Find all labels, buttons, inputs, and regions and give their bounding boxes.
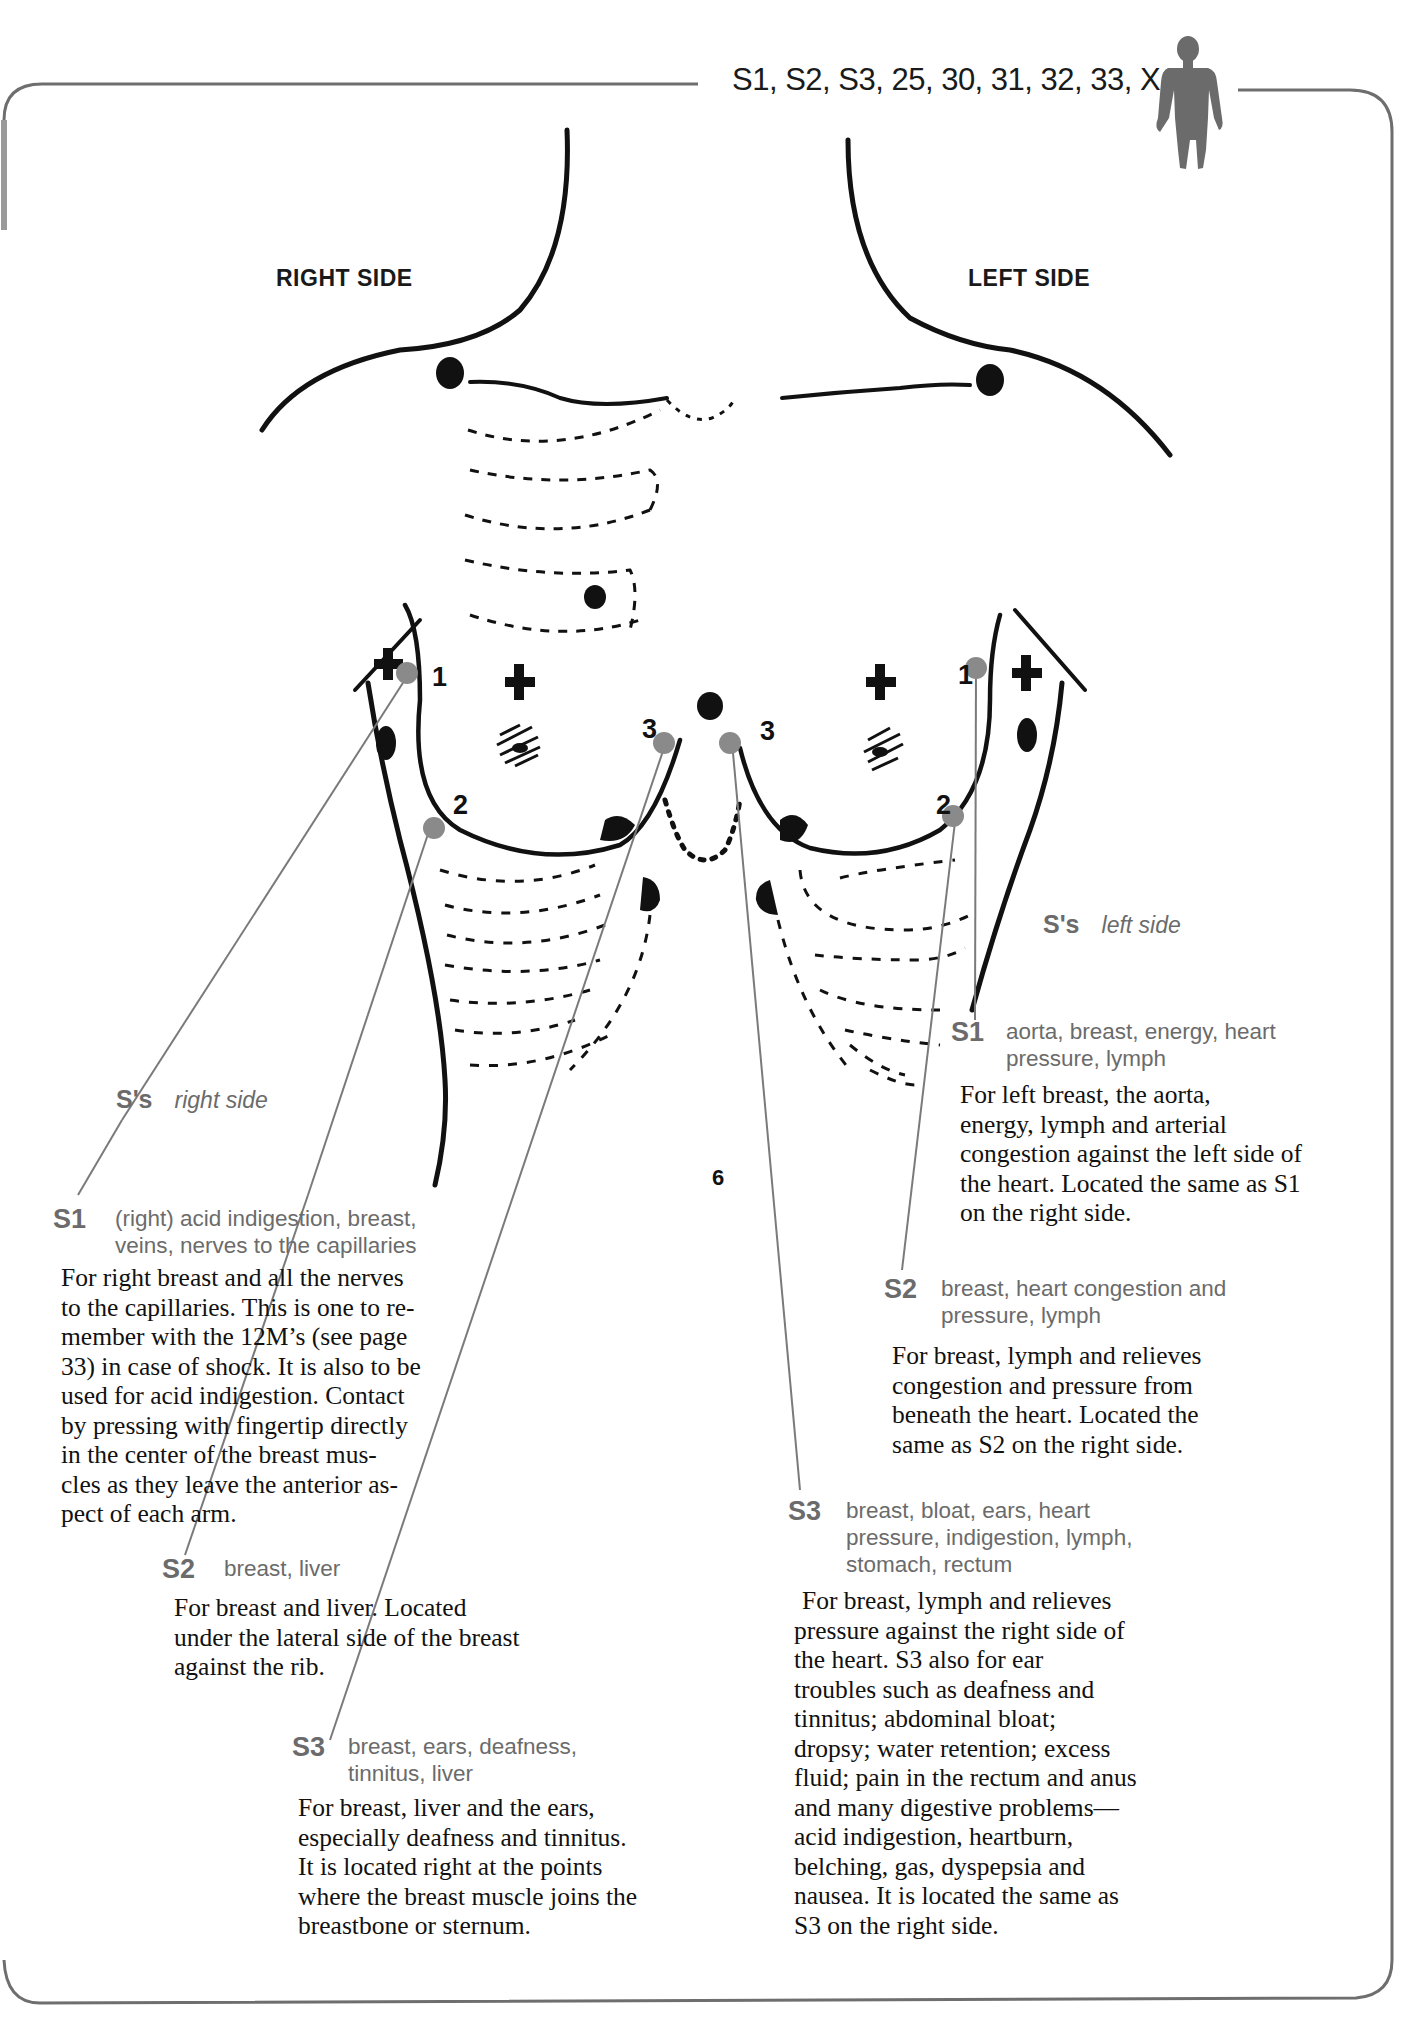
body-line: tinnitus; abdominal bloat; <box>794 1704 1258 1734</box>
point-keywords: breast, bloat, ears, heart pressure, ind… <box>846 1497 1132 1578</box>
left-s1-entry: S1 aorta, breast, energy, heart pressure… <box>951 1018 1381 1228</box>
nipple-hatch-icon <box>497 725 903 770</box>
right-s1-entry: S1 (right) acid indigestion, breast, vei… <box>53 1205 533 1529</box>
body-line: energy, lymph and arterial <box>960 1110 1381 1140</box>
body-line: breastbone or sternum. <box>298 1911 762 1941</box>
point-number-right-2: 2 <box>453 790 468 821</box>
sternal-notch <box>667 398 735 420</box>
body-line: 33) in case of shock. It is also to be <box>61 1352 533 1382</box>
body-line: to the capillaries. This is one to re- <box>61 1293 533 1323</box>
keyword-line: breast, ears, deafness, <box>348 1734 577 1759</box>
point-code: S2 <box>162 1555 224 1583</box>
left-s3-entry: S3 breast, bloat, ears, heart pressure, … <box>788 1497 1258 1940</box>
body-line: under the lateral side of the breast <box>174 1623 642 1653</box>
body-line: against the rib. <box>174 1652 642 1682</box>
point-description: For left breast, the aorta, energy, lymp… <box>951 1080 1381 1228</box>
point-header: S1 aorta, breast, energy, heart pressure… <box>951 1018 1381 1072</box>
point-keywords: breast, ears, deafness, tinnitus, liver <box>348 1733 577 1787</box>
keyword-line: breast, bloat, ears, heart <box>846 1498 1090 1523</box>
point-header: S1 (right) acid indigestion, breast, vei… <box>53 1205 533 1259</box>
body-line: For right breast and all the nerves <box>61 1263 533 1293</box>
body-line: used for acid indigestion. Contact <box>61 1381 533 1411</box>
point-header: S2 breast, heart congestion and pressure… <box>884 1275 1324 1329</box>
left-side-label: LEFT SIDE <box>968 265 1090 292</box>
body-line: where the breast muscle joins the <box>298 1882 762 1912</box>
body-line: It is located right at the points <box>298 1852 762 1882</box>
point-code: S1 <box>951 1018 1006 1072</box>
keyword-line: breast, liver <box>224 1556 340 1581</box>
center-mark: 6 <box>712 1165 724 1191</box>
body-line: For breast, liver and the ears, <box>298 1793 762 1823</box>
right-side-label: RIGHT SIDE <box>276 265 413 292</box>
point-description: For breast, liver and the ears, especial… <box>292 1793 762 1941</box>
point-keywords: (right) acid indigestion, breast, veins,… <box>115 1205 416 1259</box>
point-keywords: breast, liver <box>224 1555 340 1583</box>
keyword-line: pressure, indigestion, lymph, <box>846 1525 1132 1550</box>
body-line: fluid; pain in the rectum and anus <box>794 1763 1258 1793</box>
body-line: pect of each arm. <box>61 1499 533 1529</box>
body-line: cles as they leave the anterior as- <box>61 1470 533 1500</box>
marker-right-1 <box>396 662 418 684</box>
point-number-right-1: 1 <box>432 662 447 693</box>
keyword-line: aorta, breast, energy, heart <box>1006 1019 1276 1044</box>
body-line: congestion and pressure from <box>892 1371 1324 1401</box>
body-line: in the center of the breast mus- <box>61 1440 533 1470</box>
left-s2-entry: S2 breast, heart congestion and pressure… <box>884 1275 1324 1459</box>
body-line: member with the 12M’s (see page <box>61 1322 533 1352</box>
point-code: S1 <box>53 1205 115 1259</box>
marker-left-3 <box>719 732 741 754</box>
point-keywords: breast, heart congestion and pressure, l… <box>941 1275 1226 1329</box>
body-line: For left breast, the aorta, <box>960 1080 1381 1110</box>
body-line: on the right side. <box>960 1198 1381 1228</box>
body-line: For breast, lymph and relieves <box>892 1341 1324 1371</box>
point-header: S2 breast, liver <box>162 1555 642 1583</box>
left-side-group-label: S'sleft side <box>1043 910 1181 939</box>
keyword-line: pressure, lymph <box>1006 1046 1166 1071</box>
body-line: especially deafness and tinnitus. <box>298 1823 762 1853</box>
header-point-list: S1, S2, S3, 25, 30, 31, 32, 33, X <box>732 62 1160 98</box>
body-line: troubles such as deafness and <box>794 1675 1258 1705</box>
point-number-left-2: 2 <box>936 790 951 821</box>
body-line: nausea. It is located the same as <box>794 1881 1258 1911</box>
point-header: S3 breast, bloat, ears, heart pressure, … <box>788 1497 1258 1578</box>
body-line: belching, gas, dyspepsia and <box>794 1852 1258 1882</box>
point-number-left-3: 3 <box>760 716 775 747</box>
point-description: For breast, lymph and relieves pressure … <box>788 1586 1258 1940</box>
point-number-right-3: 3 <box>642 714 657 745</box>
body-line: beneath the heart. Located the <box>892 1400 1324 1430</box>
body-line: congestion against the left side of <box>960 1139 1381 1169</box>
group-desc: right side <box>175 1087 268 1113</box>
neck-shoulder-outline <box>262 130 1170 455</box>
upper-rib-lines <box>465 410 660 631</box>
body-line: For breast and liver. Located <box>174 1593 642 1623</box>
point-number-left-1: 1 <box>958 660 973 691</box>
body-line: the heart. S3 also for ear <box>794 1645 1258 1675</box>
keyword-line: breast, heart congestion and <box>941 1276 1226 1301</box>
point-description: For right breast and all the nerves to t… <box>53 1263 533 1529</box>
point-header: S3 breast, ears, deafness, tinnitus, liv… <box>292 1733 762 1787</box>
point-keywords: aorta, breast, energy, heart pressure, l… <box>1006 1018 1276 1072</box>
group-code: S's <box>116 1085 153 1113</box>
body-line: the heart. Located the same as S1 <box>960 1169 1381 1199</box>
keyword-line: (right) acid indigestion, breast, <box>115 1206 416 1231</box>
xiphoid-dots <box>665 800 740 860</box>
body-line: acid indigestion, heartburn, <box>794 1822 1258 1852</box>
right-s3-entry: S3 breast, ears, deafness, tinnitus, liv… <box>292 1733 762 1941</box>
point-description: For breast, lymph and relieves congestio… <box>884 1341 1324 1459</box>
human-figure-icon <box>1156 36 1222 169</box>
point-description: For breast and liver. Located under the … <box>162 1593 642 1682</box>
body-line: and many digestive problems— <box>794 1793 1258 1823</box>
keyword-line: stomach, rectum <box>846 1552 1012 1577</box>
right-s2-entry: S2 breast, liver For breast and liver. L… <box>162 1555 642 1682</box>
marker-right-2 <box>423 817 445 839</box>
point-code: S3 <box>788 1497 846 1578</box>
group-desc: left side <box>1102 912 1181 938</box>
group-code: S's <box>1043 910 1080 938</box>
point-code: S3 <box>292 1733 348 1787</box>
point-code: S2 <box>884 1275 941 1329</box>
body-line: dropsy; water retention; excess <box>794 1734 1258 1764</box>
body-line: pressure against the right side of <box>794 1616 1258 1646</box>
right-side-group-label: S'sright side <box>116 1085 268 1114</box>
body-line: For breast, lymph and relieves <box>794 1586 1258 1616</box>
chart-page: S1, S2, S3, 25, 30, 31, 32, 33, X RIGHT … <box>0 0 1425 2025</box>
